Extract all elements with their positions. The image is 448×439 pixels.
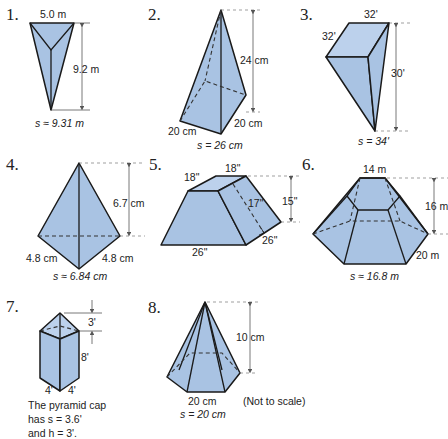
figure-6: 6. 14 m 16 m 20 m s ≈ 16.8 m bbox=[302, 155, 448, 282]
figure-6-base-label: 20 m bbox=[416, 249, 440, 261]
figure-5-number: 5. bbox=[149, 155, 162, 174]
figure-8-height-label: 10 cm bbox=[236, 331, 265, 343]
figure-1: 1. 5.0 m 9.2 m s ≈ 9.31 m bbox=[6, 5, 100, 129]
figure-2-height-label: 24 cm bbox=[240, 54, 269, 66]
figure-5-slant-label: 17" bbox=[248, 197, 264, 209]
figure-7-prism-height-label: 8' bbox=[81, 351, 89, 363]
figure-4-base-left-label: 4.8 cm bbox=[26, 252, 58, 264]
figure-3-top-label: 32' bbox=[364, 8, 378, 20]
figure-3-side-label: 32' bbox=[322, 30, 336, 42]
figure-8-number: 8. bbox=[148, 298, 161, 317]
figure-3: 3. 32' 32' 30' s = 34' bbox=[300, 5, 410, 147]
figure-7-number: 7. bbox=[6, 297, 19, 316]
figure-7-base-left-label: 4' bbox=[45, 384, 53, 396]
figure-7-base-right-label: 4' bbox=[68, 384, 76, 396]
figure-7-note-line2: has s = 3.6' bbox=[28, 413, 82, 425]
figure-3-left-face bbox=[326, 57, 375, 131]
figure-5-base-right-label: 26" bbox=[262, 234, 278, 246]
figure-6-top-label: 14 m bbox=[363, 163, 387, 175]
figure-1-height-label: 9.2 m bbox=[73, 63, 100, 75]
figure-7-left-face bbox=[40, 331, 60, 391]
figure-2-base-left-label: 20 cm bbox=[168, 125, 197, 137]
figure-1-top-label: 5.0 m bbox=[40, 8, 67, 20]
figure-2-slant-label: s = 26 cm bbox=[197, 139, 243, 151]
figure-7-note-line3: and h = 3'. bbox=[28, 427, 77, 439]
figure-5: 5. 18" 18" 17" 15" 26" 26" bbox=[149, 155, 300, 258]
figure-7-right-face bbox=[60, 331, 79, 391]
figure-3-height-label: 30' bbox=[391, 67, 405, 79]
figure-3-slant-label: s = 34' bbox=[358, 135, 390, 147]
figure-2-base-right-label: 20 cm bbox=[234, 117, 263, 129]
figure-6-number: 6. bbox=[302, 155, 315, 174]
figure-8-shape bbox=[167, 302, 240, 392]
figure-8-slant-label: s = 20 cm bbox=[180, 408, 226, 420]
figure-1-shape bbox=[30, 23, 74, 110]
figure-6-height-label: 16 m bbox=[425, 200, 448, 212]
figure-3-number: 3. bbox=[300, 5, 313, 24]
figure-5-top-right-label: 18" bbox=[225, 162, 241, 174]
figure-2-shape bbox=[180, 10, 246, 134]
figure-8-base-label: 20 cm bbox=[188, 395, 217, 407]
figure-4-slant-label: s ≈ 6.84 cm bbox=[53, 270, 107, 282]
figure-4-base-right-label: 4.8 cm bbox=[102, 252, 134, 264]
figure-7: 7. 3' 8' 4' 4' The pyramid cap has s = 3… bbox=[6, 297, 106, 439]
figure-5-base-front-label: 26" bbox=[192, 246, 208, 258]
geometry-figures: 1. 5.0 m 9.2 m s ≈ 9.31 m 2. 24 cm 20 cm… bbox=[0, 0, 448, 439]
figure-8: 8. 10 cm 20 cm s = 20 cm (Not to scale) bbox=[148, 298, 305, 420]
figure-1-number: 1. bbox=[6, 5, 19, 24]
figure-7-note-line1: The pyramid cap bbox=[28, 399, 106, 411]
figure-4-height-label: 6.7 cm bbox=[113, 197, 145, 209]
figure-7-cap-height-label: 3' bbox=[88, 316, 96, 328]
figure-4-number: 4. bbox=[6, 155, 19, 174]
figure-4: 4. 6.7 cm 4.8 cm 4.8 cm s ≈ 6.84 cm bbox=[6, 155, 145, 282]
figure-1-slant-label: s ≈ 9.31 m bbox=[35, 117, 84, 129]
figure-5-top-left-label: 18" bbox=[184, 171, 200, 183]
figure-6-slant-label: s ≈ 16.8 m bbox=[350, 270, 399, 282]
figure-2: 2. 24 cm 20 cm 20 cm s = 26 cm bbox=[148, 5, 269, 151]
figure-2-number: 2. bbox=[148, 5, 161, 24]
figure-5-height-label: 15" bbox=[282, 195, 298, 207]
figure-8-note: (Not to scale) bbox=[243, 395, 305, 407]
